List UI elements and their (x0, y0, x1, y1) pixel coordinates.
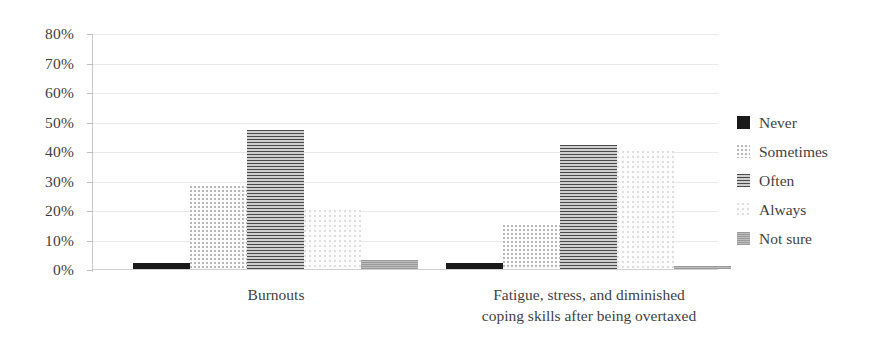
legend-item[interactable]: Always (737, 195, 887, 224)
y-axis-tick-label: 10% (45, 233, 74, 249)
bar[interactable] (617, 151, 674, 269)
y-axis-tick-label: 70% (45, 56, 74, 72)
legend-swatch-icon (737, 145, 750, 158)
y-axis-tick (87, 152, 93, 153)
bar[interactable] (190, 186, 247, 269)
y-axis-tick (87, 64, 93, 65)
legend-swatch-icon (737, 203, 750, 216)
x-axis-line (93, 269, 718, 270)
bar[interactable] (674, 266, 731, 269)
bar[interactable] (560, 145, 617, 269)
plot-area (93, 34, 718, 270)
bar[interactable] (503, 225, 560, 269)
y-axis-tick (87, 270, 93, 271)
y-axis-tick-label: 0% (53, 262, 74, 278)
legend-item-label: Never (759, 115, 797, 131)
y-axis-tick (87, 34, 93, 35)
legend-item[interactable]: Sometimes (737, 137, 887, 166)
x-axis-category-label: Fatigue, stress, and diminished coping s… (429, 284, 749, 326)
legend-swatch-icon (737, 174, 750, 187)
legend: NeverSometimesOftenAlwaysNot sure (737, 108, 887, 253)
x-axis-category-labels: BurnoutsFatigue, stress, and diminished … (93, 284, 718, 344)
y-axis-tick-label: 80% (45, 26, 74, 42)
legend-item[interactable]: Never (737, 108, 887, 137)
legend-item-label: Not sure (759, 231, 812, 247)
legend-swatch-icon (737, 232, 750, 245)
bar[interactable] (361, 260, 418, 269)
bar-group (446, 34, 732, 269)
legend-item-label: Always (759, 202, 806, 218)
bar-group-bars (133, 34, 419, 269)
y-axis-tick (87, 93, 93, 94)
bar-group (133, 34, 419, 269)
bar[interactable] (133, 263, 190, 269)
bar[interactable] (304, 210, 361, 269)
y-axis-tick-label: 20% (45, 203, 74, 219)
bar[interactable] (446, 263, 503, 269)
y-axis: 80%70%60%50%40%30%20%10%0% (0, 0, 84, 347)
legend-item[interactable]: Often (737, 166, 887, 195)
legend-item-label: Sometimes (759, 144, 828, 160)
y-axis-tick-label: 50% (45, 115, 74, 131)
legend-item-label: Often (759, 173, 794, 189)
bar-chart: 80%70%60%50%40%30%20%10%0% BurnoutsFatig… (0, 0, 894, 347)
legend-swatch-icon (737, 116, 750, 129)
y-axis-tick-label: 40% (45, 144, 74, 160)
y-axis-tick-label: 60% (45, 85, 74, 101)
bar-group-bars (446, 34, 732, 269)
y-axis-tick-label: 30% (45, 174, 74, 190)
bar[interactable] (247, 130, 304, 269)
y-axis-tick (87, 182, 93, 183)
y-axis-tick (87, 241, 93, 242)
legend-item[interactable]: Not sure (737, 224, 887, 253)
y-axis-tick (87, 211, 93, 212)
x-axis-category-label: Burnouts (116, 284, 436, 305)
y-axis-tick (87, 123, 93, 124)
